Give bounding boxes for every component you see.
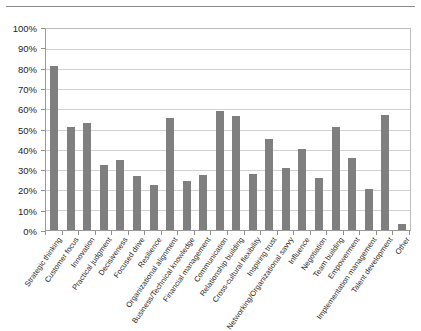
- x-axis-ticks: [45, 231, 411, 235]
- x-axis-tick: [343, 231, 344, 235]
- bar[interactable]: [199, 175, 207, 230]
- x-axis-tick: [111, 231, 112, 235]
- bar[interactable]: [166, 118, 174, 230]
- y-axis-tick-label: 70%: [0, 83, 37, 94]
- bar[interactable]: [67, 127, 75, 231]
- bar[interactable]: [50, 66, 58, 230]
- bar[interactable]: [150, 185, 158, 230]
- x-axis-tick: [244, 231, 245, 235]
- bar[interactable]: [282, 168, 290, 230]
- bar[interactable]: [298, 149, 306, 230]
- x-axis-tick: [177, 231, 178, 235]
- x-axis-tick: [326, 231, 327, 235]
- x-axis-tick-label: Other: [394, 236, 411, 256]
- x-axis-tick: [161, 231, 162, 235]
- x-axis-tick: [310, 231, 311, 235]
- y-axis-tick-label: 50%: [0, 124, 37, 135]
- x-axis-tick: [277, 231, 278, 235]
- bar[interactable]: [365, 189, 373, 230]
- plot-area: [45, 28, 411, 231]
- bar[interactable]: [348, 158, 356, 230]
- y-axis-labels: 100% 90% 80% 70% 60% 50% 40% 30% 20% 10%…: [0, 28, 41, 231]
- y-axis-tick-label: 80%: [0, 63, 37, 74]
- bar[interactable]: [232, 116, 240, 230]
- bar[interactable]: [381, 115, 389, 230]
- bar[interactable]: [116, 160, 124, 230]
- bar[interactable]: [216, 111, 224, 230]
- y-axis-tick-label: 90%: [0, 43, 37, 54]
- x-axis-tick: [194, 231, 195, 235]
- bar[interactable]: [100, 165, 108, 230]
- x-axis-tick: [293, 231, 294, 235]
- y-axis-tick-label: 10%: [0, 205, 37, 216]
- x-axis-tick: [45, 231, 46, 235]
- x-axis-tick: [376, 231, 377, 235]
- x-axis-tick: [78, 231, 79, 235]
- bar[interactable]: [133, 176, 141, 230]
- y-axis-tick-label: 60%: [0, 104, 37, 115]
- x-axis-tick: [359, 231, 360, 235]
- y-axis-tick-label: 100%: [0, 23, 37, 34]
- bar[interactable]: [315, 178, 323, 230]
- bar-series: [46, 29, 410, 230]
- y-axis-tick-label: 40%: [0, 144, 37, 155]
- x-axis-tick: [144, 231, 145, 235]
- x-axis-tick: [210, 231, 211, 235]
- x-axis-labels: Strategic thinkingCustomer focusInnovati…: [45, 236, 421, 324]
- bar[interactable]: [398, 224, 406, 230]
- x-axis-tick: [227, 231, 228, 235]
- x-axis-tick: [128, 231, 129, 235]
- x-axis-tick: [409, 231, 410, 235]
- y-axis-tick-label: 0%: [0, 226, 37, 237]
- y-axis-tick-label: 20%: [0, 185, 37, 196]
- bar[interactable]: [265, 139, 273, 230]
- bar[interactable]: [332, 127, 340, 231]
- bar[interactable]: [183, 181, 191, 230]
- x-axis-tick: [260, 231, 261, 235]
- bar[interactable]: [83, 123, 91, 230]
- x-axis-tick: [62, 231, 63, 235]
- x-axis-tick: [95, 231, 96, 235]
- y-axis-tick-label: 30%: [0, 165, 37, 176]
- x-axis-tick: [392, 231, 393, 235]
- bar[interactable]: [249, 174, 257, 230]
